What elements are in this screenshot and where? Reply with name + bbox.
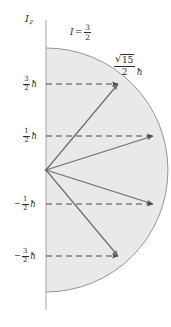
- vector-model-figure: Iz I= 3 2 √15 2 ħ: [0, 0, 171, 327]
- origin-point: [45, 169, 48, 172]
- semicircle-shading: [46, 48, 168, 292]
- figure-canvas: [0, 0, 171, 327]
